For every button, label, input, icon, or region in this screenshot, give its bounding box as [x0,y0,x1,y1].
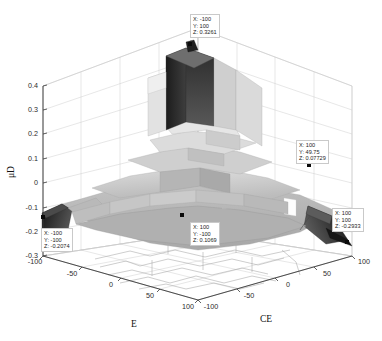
datatip-left-corner-z: Z: -0.2074 [44,243,70,250]
datatip-center-x: X: 100 [193,224,217,231]
z-tick-3: 0.1 [28,154,38,163]
z-tick-0: 0.4 [28,81,38,90]
datatip-marker-left-corner[interactable] [41,215,45,219]
z-tick-1: 0.3 [28,105,38,114]
z-tick-6: -0.2 [26,227,38,236]
datatip-peak-y: Y: 100 [193,23,217,30]
surface-plot-svg: 0.4 0.3 0.2 0.1 0 -0.1 -0.2 -0.3 -100 -5… [0,0,382,341]
datatip-peak[interactable]: X: -100 Y: 100 Z: 0.3261 [190,14,220,38]
datatip-marker-peak[interactable] [188,42,192,46]
datatip-left-corner-y: Y: -100 [44,237,70,244]
y-tick-2: 0 [286,280,290,289]
z-tick-4: 0 [34,178,38,187]
datatip-marker-center[interactable] [180,213,184,217]
datatip-center-z: Z: 0.1069 [193,237,217,244]
datatip-right-mid-y: Y: 49.75 [299,149,326,156]
z-axis-label: μD [6,166,16,178]
datatip-right-corner[interactable]: X: 100 Y: 100 Z: -0.2933 [332,208,364,232]
datatip-right-mid-x: X: 100 [299,142,326,149]
datatip-peak-x: X: -100 [193,16,217,23]
x-tick-3: 50 [146,291,154,300]
datatip-left-corner-x: X: -100 [44,230,70,237]
figure-canvas: 0.4 0.3 0.2 0.1 0 -0.1 -0.2 -0.3 -100 -5… [0,0,382,341]
datatip-center-y: Y: -100 [193,231,217,238]
datatip-right-mid-z: Z: 0.07729 [299,155,326,162]
datatip-marker-right-corner[interactable] [345,240,349,244]
x-tick-1: -50 [67,269,77,278]
x-tick-2: 0 [109,280,113,289]
y-tick-4: 100 [358,257,370,266]
datatip-right-corner-y: Y: 100 [335,217,361,224]
y-tick-1: -50 [244,291,254,300]
z-tick-2: 0.2 [28,129,38,138]
datatip-left-corner[interactable]: X: -100 Y: -100 Z: -0.2074 [41,228,73,252]
y-tick-3: 50 [323,269,331,278]
y-tick-0: -100 [204,302,218,311]
x-axis-label: E [131,319,137,329]
datatip-center[interactable]: X: 100 Y: -100 Z: 0.1069 [190,222,220,246]
z-tick-labels: 0.4 0.3 0.2 0.1 0 -0.1 -0.2 -0.3 [26,81,38,260]
datatip-right-corner-x: X: 100 [335,210,361,217]
datatip-right-mid[interactable]: X: 100 Y: 49.75 Z: 0.07729 [296,140,329,164]
datatip-right-corner-z: Z: -0.2933 [335,223,361,230]
y-axis-label: CE [260,314,272,324]
z-tick-5: -0.1 [26,203,38,212]
x-tick-4: 100 [182,302,194,311]
datatip-peak-z: Z: 0.3261 [193,29,217,36]
x-tick-0: -100 [28,257,42,266]
